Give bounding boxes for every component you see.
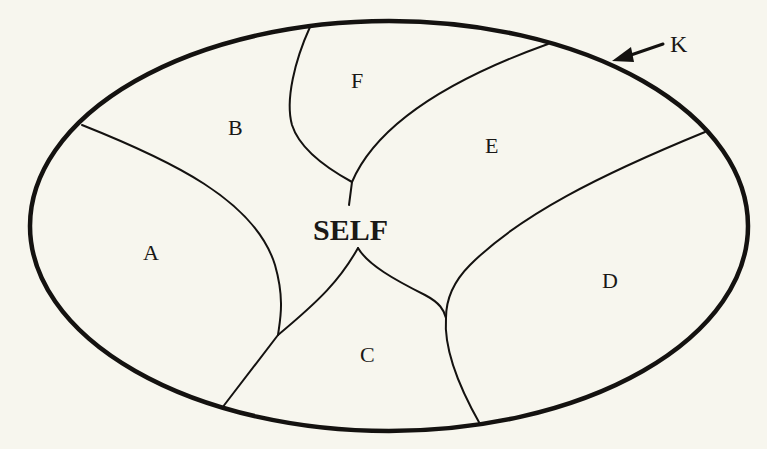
self-label: SELF bbox=[313, 213, 388, 246]
boundary-label-k: K bbox=[670, 31, 688, 57]
region-label-b: B bbox=[228, 115, 243, 140]
region-label-c: C bbox=[360, 342, 375, 367]
divider-f-e bbox=[349, 44, 548, 205]
region-label-e: E bbox=[485, 133, 498, 158]
divider-a-b bbox=[82, 125, 281, 335]
divider-self-c-left bbox=[278, 248, 358, 335]
region-label-f: F bbox=[351, 68, 363, 93]
divider-e-d bbox=[446, 132, 705, 318]
self-region-diagram: A B C D E F SELF K bbox=[0, 0, 767, 449]
divider-b-f bbox=[290, 27, 352, 182]
boundary-ellipse-k bbox=[30, 21, 748, 431]
divider-c-d bbox=[446, 318, 480, 424]
arrow-k-icon bbox=[612, 44, 663, 62]
region-label-d: D bbox=[602, 268, 618, 293]
divider-self-c-right bbox=[358, 248, 446, 318]
region-label-a: A bbox=[143, 240, 159, 265]
divider-a-c bbox=[222, 335, 278, 408]
